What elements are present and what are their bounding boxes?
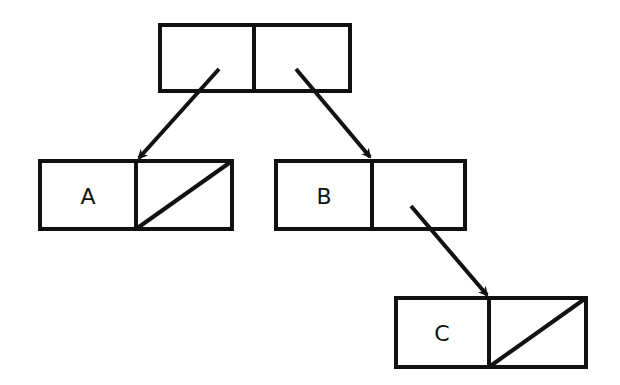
pointer-arrow-root-to-a <box>139 69 219 158</box>
pointer-arrow-root-to-b <box>296 69 370 157</box>
cell-a: A <box>40 161 232 229</box>
pointer-arrow-b-to-c <box>411 206 487 295</box>
cell-c-label: C <box>434 321 449 346</box>
cell-a-label: A <box>80 184 95 209</box>
cell-b: B <box>276 161 465 229</box>
nil-slash-icon <box>489 298 586 367</box>
nil-slash-icon <box>136 161 232 229</box>
box-pointer-diagram: A B C <box>0 0 620 385</box>
cell-c: C <box>396 298 586 367</box>
cell-b-label: B <box>316 184 331 209</box>
root-cell <box>160 25 350 91</box>
